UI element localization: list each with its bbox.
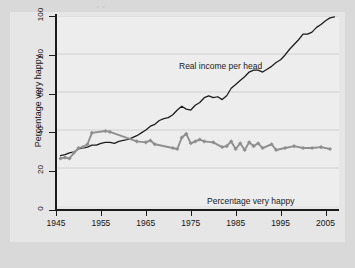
data-point-marker — [171, 146, 175, 150]
y-axis-line — [55, 14, 57, 210]
x-tick — [191, 211, 192, 216]
figure-container: .. Are we richer Percentage very happy R… — [0, 0, 355, 268]
y-tick-label: 100 — [36, 7, 45, 23]
data-point-marker — [63, 155, 67, 159]
y-tick-label: 0 — [36, 201, 45, 217]
data-point-marker — [328, 147, 332, 151]
page-bleed-text-top: .. — [96, 0, 107, 11]
y-tick — [49, 55, 55, 56]
x-tick-label: 1965 — [129, 218, 163, 228]
series-label-very-happy: Percentage very happy — [207, 196, 294, 206]
x-tick — [281, 211, 282, 216]
data-point-marker — [301, 146, 305, 150]
x-tick — [326, 211, 327, 216]
gridlines — [56, 16, 339, 168]
x-tick — [236, 211, 237, 216]
series-line-real-income — [60, 17, 334, 156]
chart-panel: Percentage very happy Real income per he… — [10, 12, 345, 242]
x-tick-label: 1985 — [219, 218, 253, 228]
x-tick-label: 2005 — [309, 218, 343, 228]
plot-svg — [56, 16, 339, 206]
x-tick-label: 1955 — [84, 218, 118, 228]
y-tick-label: 40 — [36, 123, 45, 139]
y-tick-label: 80 — [36, 45, 45, 61]
x-tick-label: 1945 — [39, 218, 73, 228]
y-tick — [49, 132, 55, 133]
y-tick — [49, 94, 55, 95]
x-tick-label: 1995 — [264, 218, 298, 228]
data-point-marker — [319, 145, 323, 149]
data-point-marker — [292, 144, 296, 148]
y-tick-label: 20 — [36, 162, 45, 178]
y-tick — [49, 171, 55, 172]
y-tick — [49, 210, 55, 211]
x-tick — [146, 211, 147, 216]
y-tick — [49, 16, 55, 17]
series-line-very-happy — [60, 131, 330, 159]
series-layer — [58, 17, 334, 161]
data-point-marker — [103, 129, 107, 133]
plot-area: Real income per head Percentage very hap… — [56, 16, 339, 206]
data-point-marker — [310, 146, 314, 150]
x-tick — [101, 211, 102, 216]
data-point-marker — [58, 156, 62, 160]
x-axis-line — [55, 209, 339, 211]
x-tick-label: 1975 — [174, 218, 208, 228]
data-point-marker — [283, 146, 287, 150]
y-tick-label: 60 — [36, 84, 45, 100]
x-tick — [56, 211, 57, 216]
series-label-real-income: Real income per head — [179, 61, 262, 71]
